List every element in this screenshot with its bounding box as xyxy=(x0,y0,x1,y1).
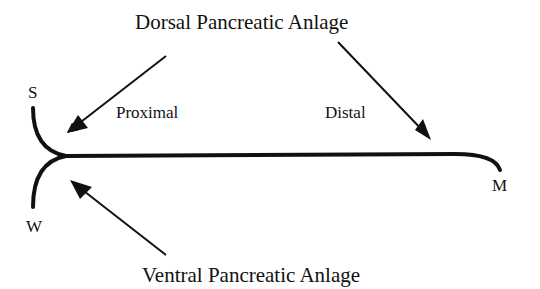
ventral-anlage-label: Ventral Pancreatic Anlage xyxy=(142,265,360,286)
s-label: S xyxy=(28,84,37,101)
ventral-arrow xyxy=(80,188,166,255)
proximal-label: Proximal xyxy=(116,104,178,121)
duct-main-line xyxy=(66,154,500,170)
duct-w-branch xyxy=(33,156,66,207)
duct-s-branch xyxy=(33,108,66,156)
pancreatic-anlage-diagram xyxy=(0,0,540,289)
w-label: W xyxy=(26,218,42,235)
dorsal-anlage-label: Dorsal Pancreatic Anlage xyxy=(135,12,348,33)
distal-label: Distal xyxy=(325,104,366,121)
m-label: M xyxy=(492,177,507,194)
